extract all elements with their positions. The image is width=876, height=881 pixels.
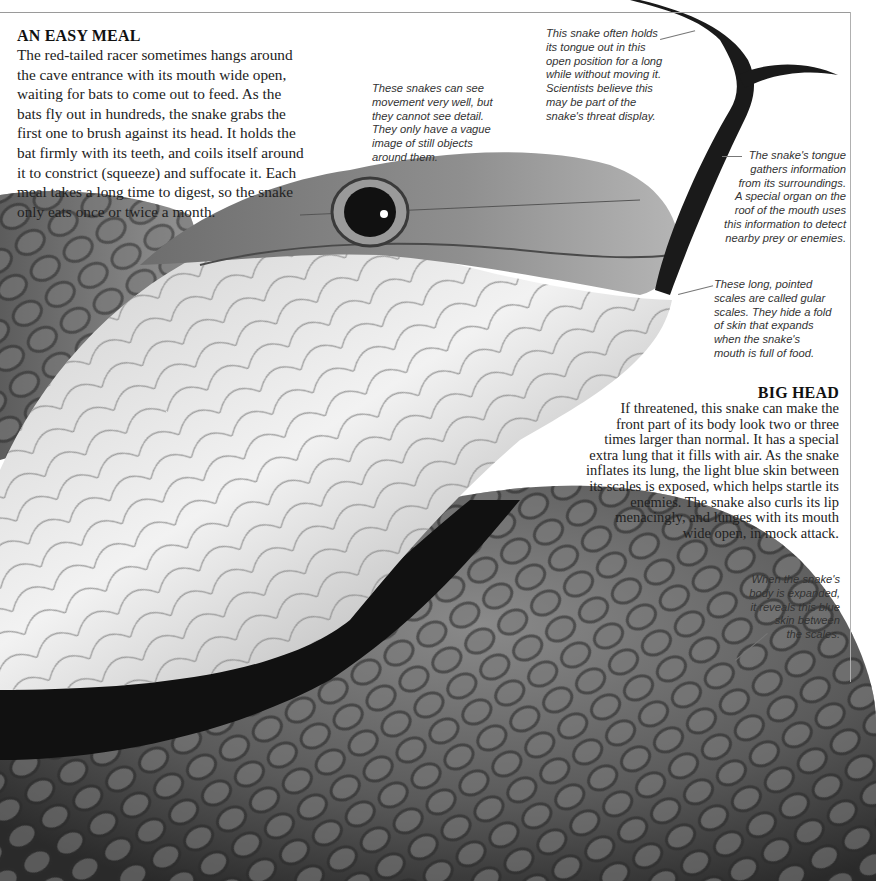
easy-meal-text: The red-tailed racer sometimes hangs aro…	[17, 45, 317, 221]
caption-tongue-info: The snake's tongue gathers information f…	[692, 149, 846, 246]
text-line: meal takes a long time to digest, so the…	[17, 182, 317, 202]
easy-meal-heading: AN EASY MEAL	[17, 27, 141, 45]
text-line: front part of its body look two or three	[480, 417, 839, 433]
text-line: its scales is exposed, which helps start…	[480, 479, 839, 495]
text-line: menacingly, and lunges with its mouth	[480, 510, 839, 526]
big-head-text: If threatened, this snake can make the f…	[480, 401, 839, 541]
text-line: only eats once or twice a month.	[17, 202, 317, 222]
text-line: wide open, in mock attack.	[480, 526, 839, 542]
caption-gular-scales: These long, pointed scales are called gu…	[714, 278, 854, 361]
text-line: waiting for bats to come out to feed. As…	[17, 84, 317, 104]
text-line: extra lung that it fills with air. As th…	[480, 448, 839, 464]
text-line: first one to brush against its head. It …	[17, 123, 317, 143]
text-line: it to constrict (squeeze) and suffocate …	[17, 163, 317, 183]
text-line: bats fly out in hundreds, the snake grab…	[17, 104, 317, 124]
text-line: inflates its lung, the light blue skin b…	[480, 463, 839, 479]
caption-eyes: These snakes can see movement very well,…	[372, 82, 522, 165]
text-line: times larger than normal. It has a speci…	[480, 432, 839, 448]
text-line: the cave entrance with its mouth wide op…	[17, 65, 317, 85]
text-line: bat firmly with its teeth, and coils its…	[17, 143, 317, 163]
caption-blue-skin: When the snake's body is expanded, it re…	[690, 573, 840, 642]
text-line: The red-tailed racer sometimes hangs aro…	[17, 45, 317, 65]
text-line: If threatened, this snake can make the	[480, 401, 839, 417]
text-line: enemies. The snake also curls its lip	[480, 495, 839, 511]
caption-tongue-hold: This snake often holds its tongue out in…	[546, 27, 696, 124]
leader-line-tongue-info	[722, 156, 742, 157]
frame-line-top	[0, 12, 851, 13]
